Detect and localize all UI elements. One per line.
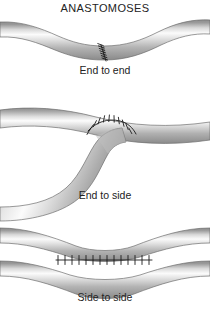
anastomoses-illustration bbox=[0, 0, 210, 310]
panel-label-side-to-side: Side to side bbox=[0, 291, 210, 303]
vessel-upper bbox=[0, 228, 210, 262]
vessel-right-segment bbox=[104, 20, 210, 60]
figure-title: ANASTOMOSES bbox=[0, 2, 210, 14]
vessel-left-segment bbox=[0, 22, 104, 60]
anastomoses-figure: ANASTOMOSES bbox=[0, 0, 210, 310]
panel-label-end-to-end: End to end bbox=[0, 64, 210, 76]
panel-side-to-side bbox=[0, 228, 210, 299]
panel-end-to-end bbox=[0, 20, 210, 61]
panel-end-to-side bbox=[0, 108, 210, 221]
panel-label-end-to-side: End to side bbox=[0, 189, 210, 201]
